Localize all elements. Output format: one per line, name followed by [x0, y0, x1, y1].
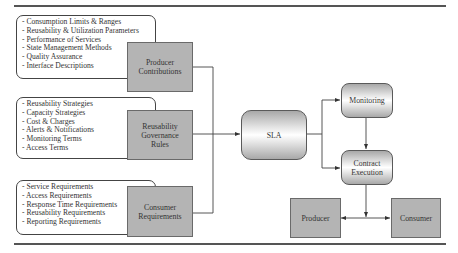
edge-producer-contributions: [192, 67, 213, 213]
producer-node: Producer: [290, 198, 341, 238]
consumer-node: Consumer: [391, 198, 441, 238]
edge-sla-monitoring: [322, 100, 340, 134]
node-label: Producer Contributions: [139, 58, 182, 76]
node-label: Monitoring: [349, 96, 385, 105]
monitoring-node: Monitoring: [341, 83, 393, 118]
reusability-governance-node: Reusability Governance Rules: [127, 110, 193, 160]
sla-node: SLA: [241, 110, 307, 160]
node-label: SLA: [267, 131, 282, 140]
node-label: Consumer: [400, 214, 432, 223]
edge-sla-contract: [322, 134, 340, 168]
node-label: Consumer Requirements: [138, 203, 181, 221]
node-label: Reusability Governance Rules: [141, 122, 179, 149]
node-label: Contract Execution: [351, 159, 383, 177]
consumer-requirements-node: Consumer Requirements: [127, 186, 193, 237]
contract-execution-node: Contract Execution: [341, 150, 393, 185]
node-label: Producer: [301, 214, 329, 223]
producer-contributions-node: Producer Contributions: [127, 42, 193, 92]
